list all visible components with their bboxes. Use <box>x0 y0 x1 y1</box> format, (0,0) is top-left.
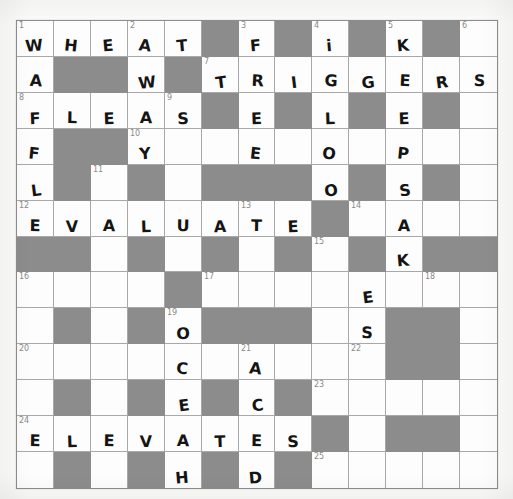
crossword-grid[interactable]: 1WHE2AT3F4i5K6AW7TRIGGERS8FLEA9SELEF10YE… <box>16 20 498 489</box>
crossword-cell[interactable]: H <box>165 452 202 488</box>
crossword-cell[interactable] <box>386 452 423 488</box>
crossword-cell[interactable]: G <box>349 57 386 93</box>
crossword-cell[interactable]: L <box>54 416 91 452</box>
crossword-cell[interactable]: E <box>239 93 275 129</box>
crossword-cell[interactable] <box>460 380 497 416</box>
crossword-cell[interactable]: W <box>128 57 165 93</box>
crossword-cell[interactable]: E <box>91 93 128 129</box>
crossword-cell[interactable]: I <box>275 57 312 93</box>
crossword-cell[interactable]: A <box>386 201 423 237</box>
crossword-cell[interactable] <box>423 201 460 237</box>
crossword-cell[interactable] <box>202 129 239 165</box>
crossword-cell[interactable] <box>460 308 497 344</box>
crossword-cell[interactable]: L <box>128 201 165 237</box>
crossword-cell[interactable] <box>275 129 312 165</box>
crossword-cell[interactable] <box>239 237 275 272</box>
crossword-cell[interactable] <box>17 380 54 416</box>
crossword-cell[interactable] <box>349 380 386 416</box>
crossword-cell[interactable]: C <box>239 380 275 416</box>
crossword-cell[interactable] <box>202 344 239 380</box>
crossword-cell[interactable]: S <box>275 416 312 452</box>
crossword-cell[interactable] <box>460 452 497 488</box>
crossword-cell[interactable]: 12E <box>17 201 54 237</box>
crossword-cell[interactable]: 15 <box>312 237 349 272</box>
crossword-cell[interactable]: 10Y <box>128 129 165 165</box>
crossword-cell[interactable]: F <box>17 129 54 165</box>
crossword-cell[interactable]: L <box>54 93 91 129</box>
crossword-cell[interactable]: 25 <box>312 452 349 488</box>
crossword-cell[interactable]: H <box>54 21 91 57</box>
crossword-cell[interactable] <box>460 344 497 380</box>
crossword-cell[interactable]: G <box>312 57 349 93</box>
crossword-cell[interactable]: 21A <box>239 344 275 380</box>
crossword-cell[interactable]: 18 <box>423 272 460 308</box>
crossword-cell[interactable]: 7T <box>202 57 239 93</box>
crossword-cell[interactable] <box>460 201 497 237</box>
crossword-cell[interactable]: E <box>239 416 275 452</box>
crossword-cell[interactable] <box>460 165 497 201</box>
crossword-cell[interactable]: P <box>386 129 423 165</box>
crossword-cell[interactable]: A <box>128 93 165 129</box>
crossword-cell[interactable]: T <box>202 416 239 452</box>
crossword-cell[interactable]: 16 <box>17 272 54 308</box>
crossword-cell[interactable] <box>312 344 349 380</box>
crossword-cell[interactable] <box>165 237 202 272</box>
crossword-cell[interactable] <box>91 344 128 380</box>
crossword-cell[interactable]: 17 <box>202 272 239 308</box>
crossword-cell[interactable]: L <box>17 165 54 201</box>
crossword-cell[interactable] <box>128 272 165 308</box>
crossword-cell[interactable]: E <box>91 21 128 57</box>
crossword-cell[interactable]: A <box>202 201 239 237</box>
crossword-cell[interactable] <box>386 272 423 308</box>
crossword-cell[interactable]: 19O <box>165 308 202 344</box>
crossword-cell[interactable]: D <box>239 452 275 488</box>
crossword-cell[interactable] <box>54 344 91 380</box>
crossword-cell[interactable]: 14 <box>349 201 386 237</box>
crossword-cell[interactable] <box>91 308 128 344</box>
crossword-cell[interactable]: 24E <box>17 416 54 452</box>
crossword-cell[interactable]: S <box>349 308 386 344</box>
crossword-cell[interactable] <box>54 272 91 308</box>
crossword-cell[interactable] <box>349 129 386 165</box>
crossword-cell[interactable] <box>91 380 128 416</box>
crossword-cell[interactable] <box>128 344 165 380</box>
crossword-cell[interactable]: A <box>91 201 128 237</box>
crossword-cell[interactable]: E <box>386 57 423 93</box>
crossword-cell[interactable]: 13T <box>239 201 275 237</box>
crossword-cell[interactable]: R <box>239 57 275 93</box>
crossword-cell[interactable]: S <box>460 57 497 93</box>
crossword-cell[interactable] <box>460 129 497 165</box>
crossword-cell[interactable] <box>460 416 497 452</box>
crossword-cell[interactable] <box>349 452 386 488</box>
crossword-cell[interactable]: 9S <box>165 93 202 129</box>
crossword-cell[interactable]: R <box>423 57 460 93</box>
crossword-cell[interactable]: A <box>165 416 202 452</box>
crossword-cell[interactable] <box>312 272 349 308</box>
crossword-cell[interactable] <box>423 380 460 416</box>
crossword-cell[interactable] <box>386 380 423 416</box>
crossword-cell[interactable]: 4i <box>312 21 349 57</box>
crossword-cell[interactable]: 23 <box>312 380 349 416</box>
crossword-cell[interactable]: 8F <box>17 93 54 129</box>
crossword-cell[interactable]: E <box>239 129 275 165</box>
crossword-cell[interactable]: A <box>17 57 54 93</box>
crossword-cell[interactable]: V <box>128 416 165 452</box>
crossword-cell[interactable] <box>349 416 386 452</box>
crossword-cell[interactable]: 2A <box>128 21 165 57</box>
crossword-cell[interactable]: S <box>386 165 423 201</box>
crossword-cell[interactable] <box>165 165 202 201</box>
crossword-cell[interactable]: E <box>349 272 386 308</box>
crossword-cell[interactable] <box>312 308 349 344</box>
crossword-cell[interactable]: 5K <box>386 21 423 57</box>
crossword-cell[interactable] <box>275 344 312 380</box>
crossword-cell[interactable]: 6 <box>460 21 497 57</box>
crossword-cell[interactable]: E <box>275 201 312 237</box>
crossword-cell[interactable]: 1W <box>17 21 54 57</box>
crossword-cell[interactable]: 3F <box>239 21 275 57</box>
crossword-cell[interactable] <box>423 452 460 488</box>
crossword-cell[interactable] <box>460 93 497 129</box>
crossword-cell[interactable] <box>17 452 54 488</box>
crossword-cell[interactable]: 11 <box>91 165 128 201</box>
crossword-cell[interactable]: K <box>386 237 423 272</box>
crossword-cell[interactable] <box>17 308 54 344</box>
